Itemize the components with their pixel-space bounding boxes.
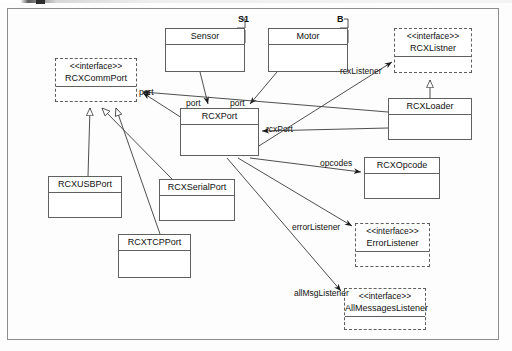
interface-name-rcxcommport: RCXCommPort (56, 72, 136, 87)
edge-label-port-left: port (139, 87, 154, 97)
class-name-rcxloader: RCXLoader (389, 99, 471, 115)
class-name-sensor: Sensor (166, 29, 244, 45)
edge-label-opcodes: opcodes (320, 158, 352, 168)
stereotype-label-allmessageslistener: <<interface>> (345, 289, 425, 302)
interface-name-errorlistener: ErrorListener (356, 237, 429, 252)
edge-label-rcxport: rcxPort (266, 124, 293, 134)
edge-label-allmsglistener: allMsgListener (294, 288, 349, 298)
class-box-rcxserialport[interactable]: RCXSerialPort (159, 179, 235, 221)
class-name-rcxport: RCXPort (181, 109, 258, 125)
interface-box-allmessageslistener[interactable]: <<interface>> AllMessagesListener (344, 288, 426, 330)
interface-box-rcxcommport[interactable]: <<interface>> RCXCommPort (55, 58, 137, 102)
edge-sensor-rcxport (200, 72, 208, 104)
class-name-rcxserialport: RCXSerialPort (160, 180, 234, 196)
edge-gen-rcxtcpport-rcxcommport (116, 108, 160, 234)
edge-gen-rcxusbport-rcxcommport (88, 108, 90, 176)
class-box-rcxloader[interactable]: RCXLoader (388, 98, 472, 140)
edge-label-port-middle: port (186, 98, 201, 108)
class-name-rcxusbport: RCXUSBPort (49, 177, 121, 193)
class-name-rcxtcpport: RCXTCPPort (119, 235, 190, 251)
stereotype-label-rcxlistner: <<interface>> (395, 29, 471, 42)
class-box-sensor[interactable]: Sensor (165, 28, 245, 72)
edge-label-errorlistener: errorListener (292, 222, 340, 232)
class-box-rcxport[interactable]: RCXPort (180, 108, 259, 156)
interface-box-errorlistener[interactable]: <<interface>> ErrorListener (355, 223, 430, 267)
class-box-rcxtcpport[interactable]: RCXTCPPort (118, 234, 191, 278)
stereotype-label-errorlistener: <<interface>> (356, 224, 429, 237)
stereotype-label-rcxcommport: <<interface>> (56, 59, 136, 72)
edge-rcxport-rcxlistner (243, 62, 392, 156)
edge-rcxport-errorlistener (238, 158, 352, 226)
class-name-motor: Motor (269, 29, 347, 45)
edge-label-rcxlistener: rcxListener (340, 66, 382, 76)
interface-box-rcxlistner[interactable]: <<interface>> RCXListner (394, 28, 472, 73)
multiplicity-label-b: B (337, 14, 344, 24)
uml-class-diagram-canvas: Sensor Motor <<interface>> RCXListner <<… (0, 0, 512, 351)
edge-label-port-right: port (230, 98, 245, 108)
interface-name-rcxlistner: RCXListner (395, 42, 471, 57)
class-box-motor[interactable]: Motor (268, 28, 348, 72)
class-box-rcxusbport[interactable]: RCXUSBPort (48, 176, 122, 218)
class-name-rcxopcode: RCXOpcode (365, 158, 439, 174)
class-box-rcxopcode[interactable]: RCXOpcode (364, 157, 440, 199)
multiplicity-label-s1: S1 (238, 14, 249, 24)
edge-motor-rcxport (250, 72, 277, 104)
interface-name-allmessageslistener: AllMessagesListener (345, 302, 425, 317)
